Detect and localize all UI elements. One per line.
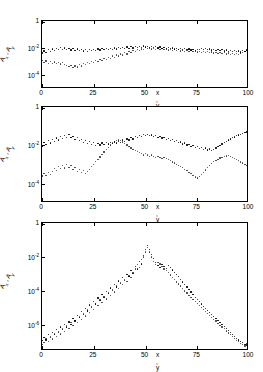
data-point xyxy=(87,171,88,172)
panel-c-yticklabel: 10-2 xyxy=(17,253,39,262)
data-point xyxy=(85,64,86,65)
panel-c-xticklabel: 25 xyxy=(81,352,105,359)
data-point xyxy=(139,135,140,136)
data-point xyxy=(205,52,206,53)
data-point xyxy=(246,50,247,51)
data-point xyxy=(99,144,100,145)
data-point xyxy=(87,309,88,310)
data-point xyxy=(85,49,86,50)
data-point xyxy=(197,146,198,147)
data-point xyxy=(79,316,80,317)
data-point xyxy=(192,51,193,52)
data-point xyxy=(83,63,84,64)
yticklabel-mantissa: 1 xyxy=(35,17,39,24)
data-point xyxy=(60,333,61,334)
panel-a-xtick-bottom xyxy=(146,84,147,87)
data-point xyxy=(79,140,80,141)
data-point xyxy=(85,140,86,141)
data-point xyxy=(155,157,156,158)
data-point xyxy=(226,49,227,50)
data-point xyxy=(48,63,49,64)
panel-a-yaxis-label: Ax , Ay xyxy=(0,43,16,64)
data-point xyxy=(139,152,140,153)
data-point xyxy=(66,325,67,326)
data-point xyxy=(161,158,162,159)
data-point xyxy=(143,134,144,135)
data-point xyxy=(72,67,73,68)
data-point xyxy=(147,245,148,246)
data-point xyxy=(66,137,67,138)
data-point xyxy=(174,279,175,280)
data-point xyxy=(213,149,214,150)
data-point xyxy=(135,51,136,52)
data-point xyxy=(147,48,148,49)
data-point xyxy=(99,49,100,50)
yticklabel-exponent: -6 xyxy=(35,321,39,326)
panel-b-xtick-top xyxy=(94,107,95,110)
data-point xyxy=(221,143,222,144)
data-point xyxy=(72,325,73,326)
data-point xyxy=(226,328,227,329)
data-point xyxy=(116,142,117,143)
data-point xyxy=(103,144,104,145)
data-point xyxy=(52,63,53,64)
data-point xyxy=(54,61,55,62)
panel-c-xtick-bottom xyxy=(94,346,95,349)
data-point xyxy=(43,342,44,343)
data-point xyxy=(195,297,196,298)
data-point xyxy=(83,313,84,314)
data-point xyxy=(199,148,200,149)
data-point xyxy=(246,131,247,132)
data-point xyxy=(215,160,216,161)
panel-c-xticklabel: 75 xyxy=(184,352,208,359)
data-point xyxy=(195,50,196,51)
data-point xyxy=(130,52,131,53)
data-point xyxy=(81,311,82,312)
data-point xyxy=(228,52,229,53)
data-point xyxy=(52,332,53,333)
data-point xyxy=(172,139,173,140)
data-point xyxy=(217,323,218,324)
data-point xyxy=(168,159,169,160)
data-point xyxy=(246,343,247,344)
data-point xyxy=(203,49,204,50)
data-point xyxy=(199,51,200,52)
panel-b-xtick-bottom xyxy=(248,198,249,201)
data-point xyxy=(170,140,171,141)
data-point xyxy=(89,141,90,142)
data-point xyxy=(87,51,88,52)
panel-a-ytick xyxy=(42,48,45,49)
data-point xyxy=(178,142,179,143)
data-point xyxy=(195,176,196,177)
data-point xyxy=(166,268,167,269)
panel-a-yticklabel: 10-2 xyxy=(17,44,39,53)
data-point xyxy=(62,62,63,63)
data-point xyxy=(137,264,138,265)
data-point xyxy=(141,48,142,49)
data-point xyxy=(41,146,42,147)
data-point xyxy=(68,328,69,329)
data-point xyxy=(95,161,96,162)
data-point xyxy=(106,298,107,299)
panel-a-xtick-top xyxy=(146,21,147,24)
data-point xyxy=(145,249,146,250)
data-point xyxy=(141,259,142,260)
data-point xyxy=(89,63,90,64)
data-point xyxy=(126,281,127,282)
panel-b-xticklabel: 25 xyxy=(81,204,105,211)
data-point xyxy=(106,149,107,150)
panel-c-xtick-top xyxy=(197,223,198,226)
data-point xyxy=(199,176,200,177)
data-point xyxy=(41,52,42,53)
yticklabel-exponent: -4 xyxy=(35,180,39,185)
data-point xyxy=(168,272,169,273)
data-point xyxy=(60,136,61,137)
data-point xyxy=(62,49,63,50)
yticklabel-mantissa: 10 xyxy=(28,143,35,150)
data-point xyxy=(201,147,202,148)
data-point xyxy=(97,61,98,62)
panel-c-xticklabel: 100 xyxy=(236,352,260,359)
data-point xyxy=(246,165,247,166)
data-point xyxy=(83,170,84,171)
data-point xyxy=(64,331,65,332)
